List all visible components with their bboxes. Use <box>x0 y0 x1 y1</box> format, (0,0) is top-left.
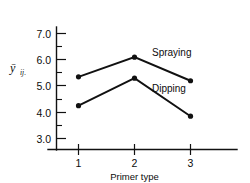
series-label-spraying: Spraying <box>152 47 191 58</box>
x-tick-label-1: 1 <box>76 157 82 169</box>
y-tick-label-6: 6.0 <box>36 54 51 66</box>
y-tick-label-7: 7.0 <box>36 28 51 40</box>
x-tick-label-2: 2 <box>132 157 138 169</box>
y-axis-major-ticks <box>57 34 66 139</box>
line-chart: 7.0 6.0 5.0 4.0 3.0 ȳ ij. 1 2 3 Primer … <box>0 0 250 183</box>
series-label-dipping: Dipping <box>152 83 186 94</box>
y-tick-label-4: 4.0 <box>36 107 51 119</box>
figure-container: 7.0 6.0 5.0 4.0 3.0 ȳ ij. 1 2 3 Primer … <box>0 0 250 183</box>
x-axis-title: Primer type <box>110 171 159 182</box>
y-axis-title-main: ȳ <box>9 61 16 75</box>
data-point <box>132 76 137 81</box>
data-point <box>76 74 81 79</box>
y-tick-label-3: 3.0 <box>36 133 51 145</box>
y-axis-title: ȳ ij. <box>9 61 26 77</box>
y-tick-label-5: 5.0 <box>36 80 51 92</box>
data-point <box>76 103 81 108</box>
data-point <box>188 114 193 119</box>
data-point <box>132 55 137 60</box>
x-tick-label-3: 3 <box>188 157 194 169</box>
y-axis-title-subscript: ij. <box>20 68 26 77</box>
data-point <box>188 78 193 83</box>
